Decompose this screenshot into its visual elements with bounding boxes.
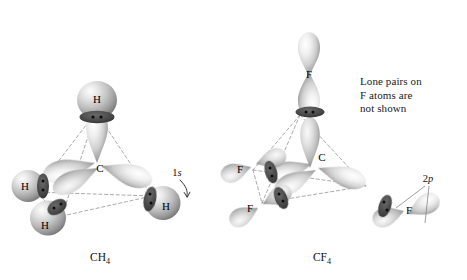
cf4-label-c: C: [318, 151, 325, 163]
ch4-panel: H H: [12, 81, 190, 266]
cf4-formula: CF4: [313, 251, 331, 266]
cf4-label-f-right: F: [406, 204, 412, 216]
ch4-label-h-left-lower: H: [41, 219, 49, 231]
cf4-annotation-2p: 2p: [396, 173, 433, 223]
cf4-orbital-label-2p: 2p: [423, 173, 434, 184]
cf4-label-f-left-lower: F: [247, 202, 253, 214]
ch4-label-h-left-upper: H: [21, 180, 29, 192]
cf4-overlap-band-top: [296, 107, 325, 118]
cf4-panel: F F: [218, 32, 443, 266]
ch4-overlap-band-left-upper: [37, 174, 49, 199]
orbital-diagram-svg: H H: [0, 0, 467, 280]
ch4-formula-main: CH: [90, 251, 106, 263]
ch4-label-h-top: H: [93, 93, 101, 105]
cf4-label-f-left-upper: F: [237, 163, 243, 175]
cf4-label-f-top: F: [306, 68, 312, 80]
ch4-overlap-band-top: [80, 111, 115, 123]
ch4-formula-sub: 4: [106, 257, 110, 266]
cf4-sp3-lobe-right: [315, 158, 369, 193]
cf4-formula-main: CF: [313, 251, 327, 263]
ch4-bond-right: H: [98, 155, 181, 220]
orbital-label-l: p: [427, 173, 433, 184]
lone-pairs-note: Lone pairs on F atoms are not shown: [360, 75, 422, 116]
ch4-label-h-right: H: [162, 200, 170, 212]
cf4-sp3-lobe-top: [300, 117, 320, 168]
ch4-formula: CH4: [90, 251, 110, 266]
figure-canvas: H H: [0, 0, 467, 280]
ch4-orbital-label-1s: 1s: [172, 167, 181, 178]
cf4-f-outer-lobe-left-lower: [226, 200, 263, 231]
ch4-label-c: C: [96, 162, 103, 174]
cf4-bond-top: F: [296, 32, 325, 168]
cf4-formula-sub: 4: [327, 257, 331, 266]
cf4-bond-right: F: [315, 158, 444, 230]
orbital-label-l: s: [178, 167, 182, 178]
ch4-sp3-lobe-right: [98, 155, 156, 192]
